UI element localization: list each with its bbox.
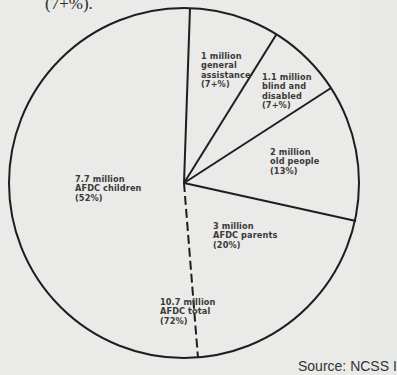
- label-line: (13%): [270, 167, 319, 176]
- slice-label-blind-disabled: 1.1 million blind and disabled (7+%): [262, 73, 312, 111]
- divider-children-general: [184, 8, 190, 183]
- slice-label-general-assistance: 1 million general assistance (7+%): [201, 52, 251, 90]
- slice-label-afdc-children: 7.7 million AFDC children (52%): [75, 175, 141, 203]
- label-line: (7+%): [262, 101, 312, 110]
- slice-label-afdc-parents: 3 million AFDC parents (20%): [213, 222, 277, 250]
- label-line: (72%): [160, 317, 215, 326]
- label-line: (20%): [213, 241, 277, 250]
- slice-label-old-people: 2 million old people (13%): [270, 148, 319, 176]
- label-line: (52%): [75, 194, 141, 203]
- source-note: Source: NCSS I: [298, 358, 397, 374]
- label-line: (7+%): [201, 80, 251, 89]
- divider-old-parents: [184, 183, 356, 221]
- annotation-afdc-total: 10.7 million AFDC total (72%): [160, 298, 215, 326]
- divider-afdc-dashed: [184, 183, 198, 358]
